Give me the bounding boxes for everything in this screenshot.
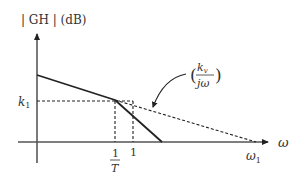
one-label: 1	[130, 146, 137, 159]
y-axis-label: | GH | (dB)	[21, 13, 86, 27]
annotation-numerator: kv	[197, 61, 208, 75]
one-over-T-numerator: 1	[112, 147, 119, 160]
omega1-label: ω1	[246, 149, 261, 165]
k1-label: k1	[18, 95, 30, 110]
annotation-denominator: jω	[194, 77, 209, 90]
annotation-arrow	[153, 74, 186, 107]
annotation-close-paren: )	[215, 65, 222, 85]
x-axis-label: ω	[278, 135, 289, 150]
magnitude-segment-steep	[115, 100, 162, 142]
bode-diagram: | GH | (dB) k1 1 T 1 ω1 ω ( kv jω )	[0, 0, 303, 185]
magnitude-segment-low	[37, 75, 115, 100]
kv-over-jw-dashed-line	[115, 100, 256, 142]
annotation-open-paren: (	[190, 65, 197, 85]
one-over-T-denominator: T	[111, 162, 120, 175]
diagram-svg: | GH | (dB) k1 1 T 1 ω1 ω ( kv jω )	[0, 0, 303, 185]
